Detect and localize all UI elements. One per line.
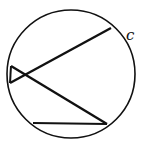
segment-left xyxy=(10,66,11,83)
geometry-diagram: c xyxy=(0,0,143,148)
circle-label: c xyxy=(126,26,135,44)
chord-left-upper-to-bottom-right xyxy=(11,66,107,124)
chord-bottom xyxy=(33,123,107,124)
